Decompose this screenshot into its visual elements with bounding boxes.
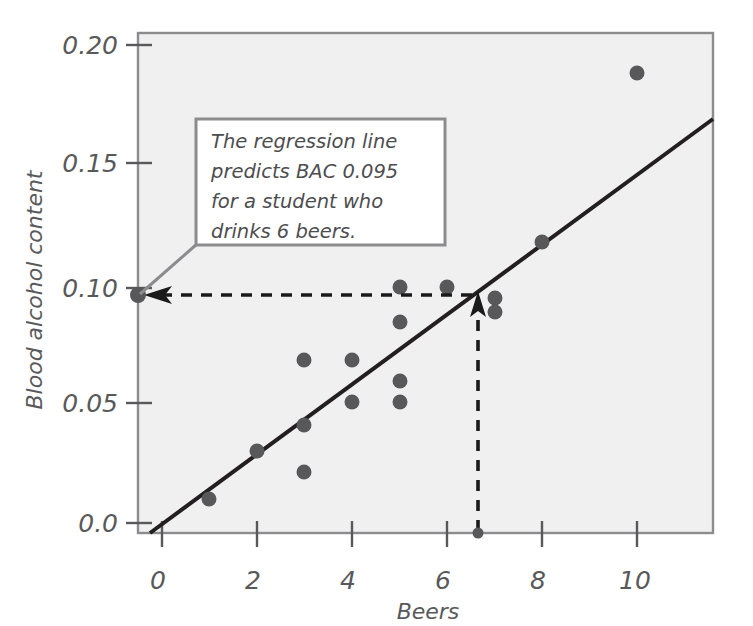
x-tick-label-2: 2 bbox=[245, 566, 261, 595]
x-axis-title: Beers bbox=[397, 599, 460, 624]
callout-line-1: The regression line bbox=[211, 130, 397, 153]
data-point bbox=[345, 353, 360, 368]
data-point bbox=[345, 395, 360, 410]
data-point bbox=[535, 235, 550, 250]
y-tick-label-000: 0.0 bbox=[78, 509, 118, 538]
x-tick-label-8: 8 bbox=[530, 566, 546, 595]
data-point bbox=[297, 353, 312, 368]
x-tick-label-0: 0 bbox=[150, 566, 166, 595]
x-tick-label-10: 10 bbox=[619, 566, 651, 595]
scatter-plot: 0.20 0.15 0.10 0.05 0.0 Blood alcohol co… bbox=[0, 0, 753, 626]
data-point bbox=[488, 305, 503, 320]
y-axis: 0.20 0.15 0.10 0.05 0.0 Blood alcohol co… bbox=[22, 31, 152, 538]
data-point bbox=[393, 315, 408, 330]
callout-line-4: drinks 6 beers. bbox=[211, 220, 356, 243]
data-point bbox=[393, 374, 408, 389]
data-point bbox=[393, 395, 408, 410]
x-tick-label-4: 4 bbox=[340, 566, 356, 595]
y-tick-label-010: 0.10 bbox=[62, 274, 118, 303]
data-point bbox=[297, 418, 312, 433]
y-tick-label-005: 0.05 bbox=[62, 389, 118, 418]
prediction-x-axis-marker bbox=[473, 528, 484, 539]
data-point bbox=[393, 280, 408, 295]
data-point bbox=[202, 492, 217, 507]
callout-line-3: for a student who bbox=[211, 190, 383, 213]
data-point bbox=[250, 444, 265, 459]
y-tick-label-015: 0.15 bbox=[62, 149, 118, 178]
data-point bbox=[297, 465, 312, 480]
data-point bbox=[488, 291, 503, 306]
data-point bbox=[440, 280, 455, 295]
y-tick-label-020: 0.20 bbox=[62, 31, 118, 60]
x-tick-label-6: 6 bbox=[435, 566, 451, 595]
figure-canvas: 0.20 0.15 0.10 0.05 0.0 Blood alcohol co… bbox=[0, 0, 753, 626]
y-axis-title: Blood alcohol content bbox=[22, 169, 47, 409]
plot-area-background bbox=[138, 33, 713, 533]
callout-line-2: predicts BAC 0.095 bbox=[210, 160, 398, 183]
data-point bbox=[630, 66, 645, 81]
x-axis: 0 2 4 6 8 10 Beers bbox=[150, 521, 651, 624]
